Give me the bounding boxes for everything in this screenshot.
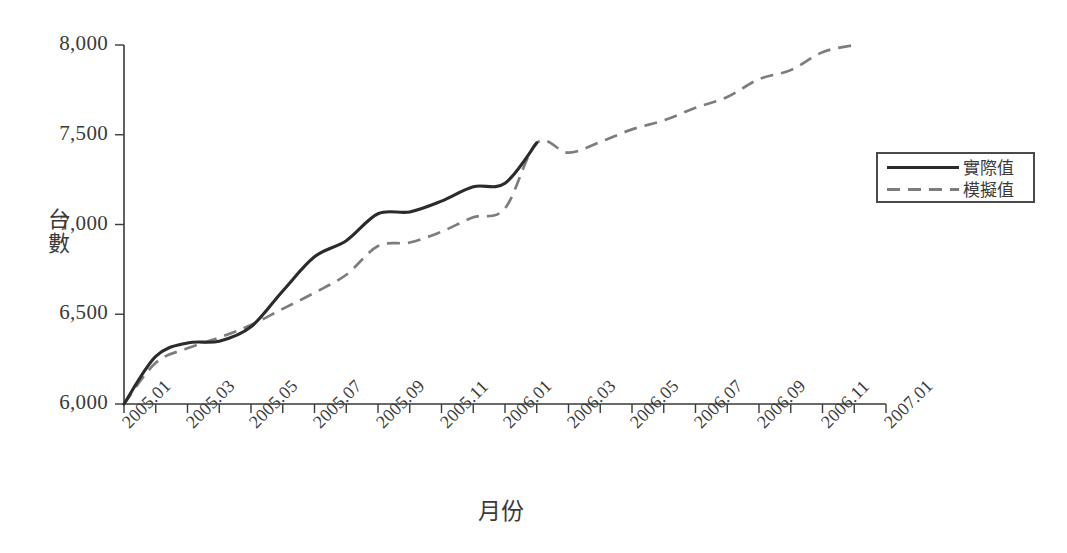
y-axis-title-char: 台 — [42, 208, 76, 232]
legend-swatch-solid-icon — [887, 161, 959, 173]
legend-item-simulated: 模擬值 — [887, 179, 1026, 199]
axes — [115, 45, 886, 413]
series-line-simulated — [124, 45, 854, 404]
line-chart: 6,0006,5007,0007,5008,000 2005.012005.03… — [0, 0, 1067, 553]
series-line-actual — [124, 143, 537, 404]
y-tick-label: 6,500 — [0, 300, 108, 325]
legend-item-actual: 實際值 — [887, 157, 1026, 177]
x-axis-title: 月份 — [0, 492, 1002, 526]
plot-area — [0, 0, 1067, 553]
legend-label-simulated: 模擬值 — [963, 176, 1014, 201]
axis-lines — [124, 45, 886, 404]
y-tick-label: 7,500 — [0, 121, 108, 146]
chart-legend: 實際值 模擬值 — [876, 152, 1035, 203]
y-tick-label: 8,000 — [0, 31, 108, 56]
y-axis-ticks — [115, 45, 124, 404]
legend-swatch-dashed-icon — [887, 183, 959, 195]
y-axis-title: 台數 — [42, 208, 76, 255]
data-series — [124, 45, 854, 404]
y-tick-label: 6,000 — [0, 390, 108, 415]
y-axis-title-char: 數 — [42, 232, 76, 256]
